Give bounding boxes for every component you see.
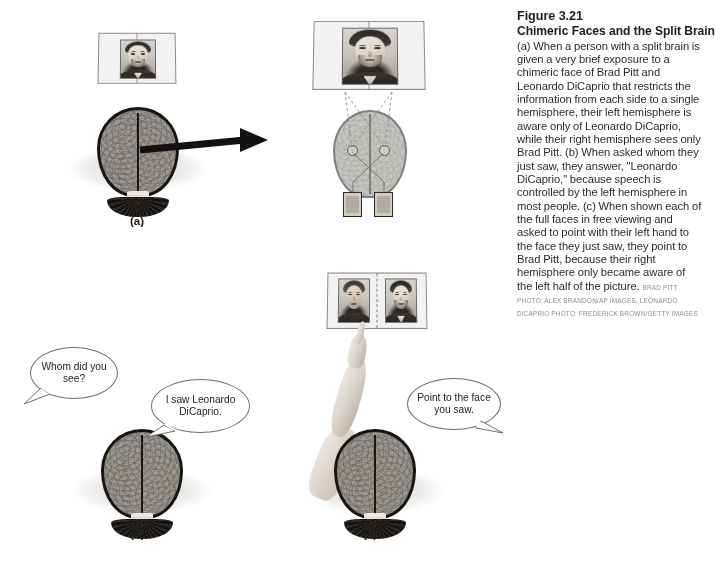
face-eye-right: [141, 53, 145, 55]
face-shoulders: [338, 312, 370, 322]
hemisphere-inset-dicaprio: [374, 192, 393, 217]
longitudinal-fissure: [374, 435, 376, 514]
examiner-question-bubble: Whom did you see?: [30, 347, 118, 399]
face-brow-left: [359, 45, 367, 46]
brain-top-view: [333, 110, 407, 198]
panel-b-head: [52, 420, 232, 538]
visual-field-node-right: [379, 145, 390, 156]
longitudinal-fissure: [369, 114, 371, 193]
panel-c-faces-screen: [327, 273, 428, 329]
face-nose: [353, 296, 355, 301]
panel-a-right-screen: [312, 21, 425, 90]
figure-caption-block: Figure 3.21 Chimeric Faces and the Split…: [517, 9, 702, 320]
hemisphere-inset-brad-pitt: [343, 192, 362, 217]
panel-a-head-left: [48, 98, 228, 216]
face-brad-pitt: [338, 278, 370, 322]
longitudinal-fissure: [137, 113, 139, 192]
figure-caption-text: (a) When a person with a split brain is …: [517, 40, 701, 292]
panel-label-c: (c): [363, 528, 377, 540]
chimeric-face-large: [342, 28, 399, 85]
face-leonardo-dicaprio: [385, 278, 417, 322]
panel-label-b: (b): [130, 528, 145, 540]
face-mouth: [135, 61, 142, 62]
face-brow-right: [403, 292, 407, 293]
brain-top-view: [97, 107, 180, 197]
panel-a-left-screen: [98, 33, 177, 84]
figure-number: Figure 3.21: [517, 9, 702, 24]
face-brow-left: [395, 292, 399, 293]
panel-label-a: (a): [130, 215, 144, 227]
screen-midline-dashed: [376, 274, 378, 328]
face-mouth: [351, 303, 357, 304]
brain-top-view: [101, 429, 184, 519]
examiner-instruction-text: Point to the face you saw.: [408, 392, 500, 417]
chimeric-face-small: [120, 40, 156, 79]
visual-field-node-left: [347, 145, 358, 156]
panel-a-head-right: [312, 108, 428, 204]
examiner-question-text: Whom did you see?: [31, 361, 117, 386]
face-mouth: [398, 303, 404, 304]
examiner-instruction-bubble: Point to the face you saw.: [407, 378, 501, 430]
patient-answer-bubble: I saw Leonardo DiCaprio.: [151, 379, 250, 433]
inset-face-image: [346, 196, 358, 213]
panel-c-head: [285, 420, 465, 538]
inset-face-image: [377, 196, 389, 213]
brain-top-view: [334, 429, 417, 519]
figure-caption: (a) When a person with a split brain is …: [517, 40, 702, 320]
face-brow-right: [374, 45, 382, 46]
longitudinal-fissure: [141, 435, 143, 514]
figure-title: Chimeric Faces and the Split Brain: [517, 24, 702, 39]
patient-answer-text: I saw Leonardo DiCaprio.: [152, 394, 249, 419]
